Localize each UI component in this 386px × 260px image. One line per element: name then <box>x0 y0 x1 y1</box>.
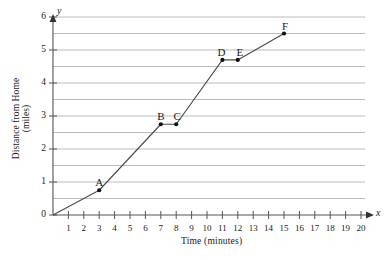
y-axis-title-line2: (miles) <box>21 54 31 184</box>
y-axis-arrowhead <box>50 14 57 22</box>
data-point-a <box>97 188 101 192</box>
data-point-b <box>159 122 163 126</box>
y-tick-label: 6 <box>32 12 46 22</box>
data-point-c <box>174 122 178 126</box>
x-tick-label: 20 <box>352 224 370 233</box>
data-point-d <box>220 58 224 62</box>
y-tick-label: 5 <box>32 45 46 55</box>
y-tick-label: 4 <box>32 78 46 88</box>
x-axis-arrowhead <box>366 212 374 219</box>
y-tick-label: 2 <box>32 144 46 154</box>
plot-canvas <box>0 0 386 260</box>
y-axis-title: Distance from Home (miles) <box>12 54 31 184</box>
y-tick-label: 3 <box>32 111 46 121</box>
y-tick-label: 0 <box>32 210 46 220</box>
point-label-e: E <box>232 47 248 58</box>
data-point-markers <box>97 31 286 192</box>
data-point-f <box>282 31 286 35</box>
point-label-f: F <box>277 21 293 32</box>
x-axis-variable-label: x <box>376 208 380 218</box>
x-axis-title: Time (minutes) <box>181 237 242 247</box>
point-label-b: B <box>153 111 169 122</box>
point-label-a: A <box>91 177 107 188</box>
point-label-d: D <box>213 47 229 58</box>
distance-time-polyline <box>53 34 284 216</box>
gridlines <box>53 17 365 199</box>
data-point-e <box>236 58 240 62</box>
y-axis-variable-label: y <box>57 6 61 16</box>
distance-time-graph-figure: 0123456 1234567891011121314151617181920 … <box>0 0 386 260</box>
y-tick-label: 1 <box>32 177 46 187</box>
point-label-c: C <box>169 111 185 122</box>
